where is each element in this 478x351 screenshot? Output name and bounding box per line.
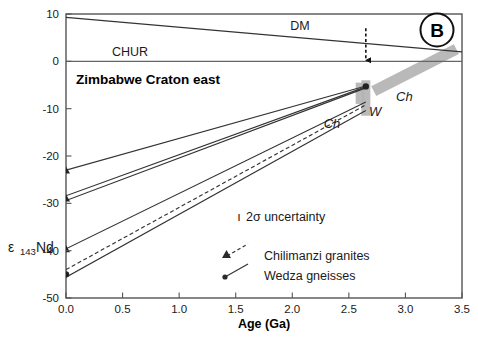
x-tick-label-6: 3.0 [397,303,413,315]
ch-band-label: Ch [396,89,413,104]
y-tick-label-1: 0 [53,55,59,67]
x-tick-label-1: 0.5 [115,303,131,315]
x-tick-label-7: 3.5 [454,303,470,315]
uncertainty-tick-glyph: ı [237,210,240,224]
x-tick-label-5: 2.5 [341,303,357,315]
x-tick-label-0: 0.0 [58,303,74,315]
x-tick-label-3: 1.5 [228,303,244,315]
y-tick-label-3: -20 [42,150,59,162]
convergence-marker-4 [363,83,369,89]
x-tick-label-4: 2.0 [284,303,300,315]
dot-marker-icon [222,274,227,279]
legend-label-wedza: Wedza gneisses [264,269,356,283]
y-tick-label-2: -10 [42,103,59,115]
y-tick-label-0: 10 [46,8,59,20]
panel-label-badge: B [421,14,454,47]
w-bar-label: W [369,104,383,119]
y-axis-nd: Nd [36,239,54,255]
y-axis-subscript: 143 [20,246,36,257]
panel-label: B [430,20,444,41]
uncertainty-label: 2σ uncertainty [246,210,326,224]
legend-label-chilimanzi: Chilimanzi granites [264,249,370,263]
nd-isotope-evolution-chart: 0.00.51.01.52.02.53.03.5 100-10-20-30-40… [0,0,478,351]
x-axis-title: Age (Ga) [238,317,290,331]
y-tick-label-4: -30 [42,197,59,209]
ch-lower-label: Ch [324,116,341,131]
y-axis-epsilon: ε [8,239,14,255]
figure-root: 0.00.51.01.52.02.53.03.5 100-10-20-30-40… [0,0,478,351]
y-tick-label-6: -50 [42,292,59,304]
region-label: Zimbabwe Craton east [76,72,221,87]
chur-label: CHUR [112,45,148,59]
x-tick-label-2: 1.0 [171,303,187,315]
dm-label: DM [290,19,309,33]
